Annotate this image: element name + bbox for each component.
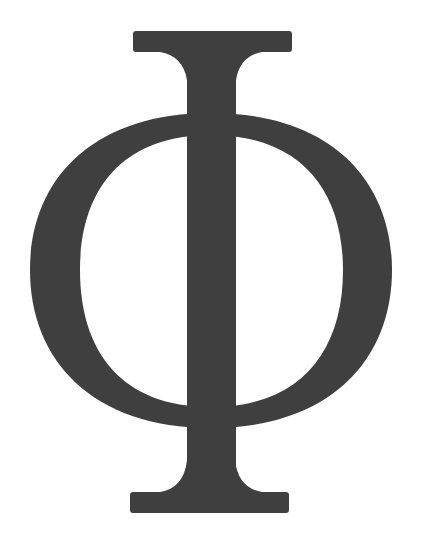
phi-bottom-serif	[130, 460, 289, 513]
phi-stem	[187, 45, 236, 500]
phi-top-serif	[133, 31, 292, 80]
phi-shape	[30, 31, 392, 513]
phi-glyph-icon	[0, 0, 422, 549]
